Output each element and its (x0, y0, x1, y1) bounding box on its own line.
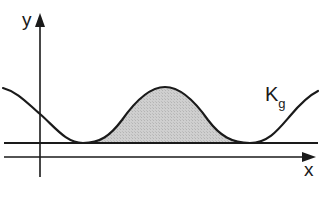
y-axis-arrow-icon (35, 13, 45, 27)
curve-label-subscript: g (278, 96, 285, 111)
y-axis-label: y (22, 10, 32, 29)
x-axis-label: x (304, 160, 314, 179)
curve-label: Kg (265, 84, 286, 108)
curve-label-main: K (265, 83, 278, 105)
